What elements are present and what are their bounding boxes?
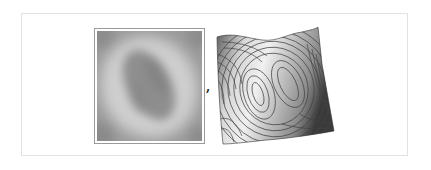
density-plot-image <box>97 31 202 141</box>
surface-plot-graphic <box>212 24 340 148</box>
surface-plot[interactable] <box>212 24 340 148</box>
density-plot[interactable] <box>94 28 205 144</box>
density-plot-graphic <box>97 31 202 141</box>
list-separator: , <box>206 80 210 94</box>
